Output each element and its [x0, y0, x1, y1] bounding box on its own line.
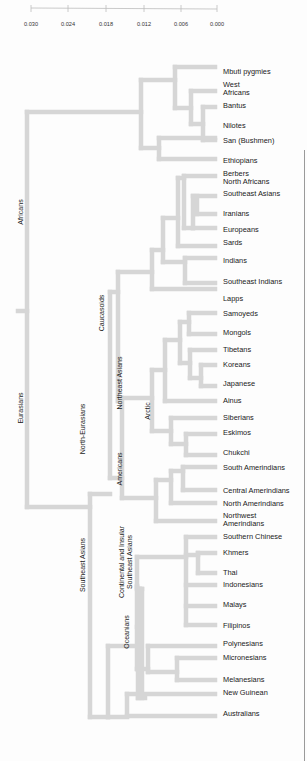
leaf-label: WestAfricans — [223, 81, 250, 97]
leaf-label: Micronesians — [223, 654, 267, 662]
axis-tick-label: 0.000 — [210, 21, 224, 27]
cluster-label: Southeast Asians — [79, 538, 87, 592]
cluster-label: Africans — [17, 199, 25, 224]
leaf-label: Indians — [223, 257, 247, 265]
leaf-label: Southern Chinese — [223, 533, 282, 541]
leaf-label: Ethiopians — [223, 157, 258, 165]
leaf-label: Australians — [223, 710, 260, 718]
axis-tick-label: 0.018 — [99, 21, 113, 27]
leaf-label: Chukchi — [223, 449, 250, 457]
leaf-label: BerbersNorth Africans — [223, 170, 269, 186]
leaf-label: Europeans — [223, 226, 259, 234]
leaf-label: Filipinos — [223, 622, 250, 630]
cluster-label: Northeast Asians — [116, 357, 124, 410]
axis-tick-label: 0.030 — [24, 21, 38, 27]
leaf-label: Siberians — [223, 414, 254, 422]
leaf-label: South Amerindians — [223, 464, 285, 472]
leaf-label: Tibetans — [223, 346, 251, 354]
leaf-label: Polynesians — [223, 640, 263, 648]
leaf-label: Lapps — [223, 295, 243, 303]
cluster-label: Caucasoids — [98, 295, 106, 332]
leaf-label: Eskimos — [223, 429, 251, 437]
leaf-label: NorthwestAmerindians — [223, 512, 264, 528]
leaf-label: Indonesians — [223, 581, 263, 589]
cluster-label: Arctic — [144, 402, 152, 420]
leaf-label: Nilotes — [223, 122, 246, 130]
leaf-label: Ainus — [223, 397, 242, 405]
leaf-label: Sards — [223, 239, 242, 247]
dendrogram-figure: 0.0300.0240.0180.0120.0060.000 Mbuti pyg… — [0, 0, 307, 761]
leaf-label: Melanesians — [223, 676, 265, 684]
leaf-label: Mongols — [223, 329, 251, 337]
leaf-label: Koreans — [223, 361, 251, 369]
leaf-label: New Guinean — [223, 689, 268, 697]
leaf-label: San (Bushmen) — [223, 137, 274, 145]
leaf-label: Central Amerindians — [223, 487, 290, 495]
leaf-label: Khmers — [223, 549, 248, 557]
cluster-label: Continental and InsularSoutheast Asians — [118, 526, 134, 598]
cluster-label: Eurasians — [17, 392, 25, 423]
leaf-label: Southeast Indians — [223, 278, 282, 286]
axis-tick-label: 0.012 — [137, 21, 151, 27]
cluster-label: Oceanians — [123, 615, 131, 648]
leaf-label: Malays — [223, 601, 246, 609]
axis-ruler — [31, 5, 217, 12]
leaf-label: Samoyeds — [223, 310, 258, 318]
leaf-label: Thai — [223, 569, 237, 577]
leaf-label: Iranians — [223, 210, 249, 218]
cluster-label: North-Eurasians — [79, 404, 87, 455]
axis-tick-label: 0.006 — [174, 21, 188, 27]
cluster-label: Americans — [116, 452, 124, 485]
axis-tick-label: 0.024 — [61, 21, 75, 27]
leaf-label: North Amerindians — [223, 500, 284, 508]
leaf-label: Southeast Asians — [223, 190, 280, 198]
leaf-label: Mbuti pygmies — [223, 68, 271, 76]
leaf-label: Bantus — [223, 102, 246, 110]
leaf-label: Japanese — [223, 380, 255, 388]
